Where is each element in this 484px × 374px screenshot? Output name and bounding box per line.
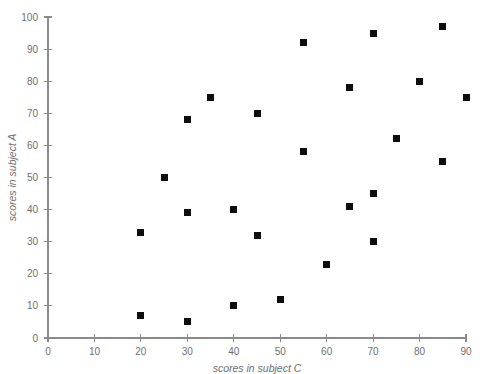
data-point	[439, 158, 446, 165]
x-tick-label: 40	[228, 346, 240, 357]
y-tick-label: 70	[27, 108, 39, 119]
x-tick-label: 0	[45, 346, 51, 357]
data-point	[161, 174, 168, 181]
data-point	[370, 190, 377, 197]
data-point	[346, 203, 353, 210]
data-point	[207, 94, 214, 101]
y-axis-group: 0102030405060708090100 scores in subject…	[6, 12, 52, 344]
y-tick-label: 80	[27, 76, 39, 87]
data-point	[230, 302, 237, 309]
plot-canvas: 0102030405060708090100 scores in subject…	[0, 0, 484, 374]
data-point	[184, 318, 191, 325]
x-axis-group: 0102030405060708090 scores in subject C	[45, 334, 472, 374]
y-tick-label: 20	[27, 268, 39, 279]
x-tick-label: 20	[135, 346, 147, 357]
data-point	[300, 148, 307, 155]
y-axis-title: scores in subject A	[6, 134, 18, 222]
data-point	[346, 84, 353, 91]
x-tick-label: 50	[275, 346, 287, 357]
scatter-plot-figure: 0102030405060708090100 scores in subject…	[0, 0, 484, 374]
x-tick-label: 90	[460, 346, 472, 357]
y-tick-label: 60	[27, 140, 39, 151]
data-point	[416, 78, 423, 85]
y-tick-label: 90	[27, 44, 39, 55]
y-tick-label: 50	[27, 172, 39, 183]
data-point	[300, 39, 307, 46]
x-tick-label: 80	[414, 346, 426, 357]
data-point	[137, 229, 144, 236]
y-tick-label: 10	[27, 300, 39, 311]
data-point	[230, 206, 237, 213]
data-point	[184, 116, 191, 123]
y-tick-label: 0	[32, 333, 38, 344]
x-tick-label: 10	[89, 346, 101, 357]
data-point	[439, 23, 446, 30]
data-point-group	[137, 23, 469, 325]
y-tick-label: 100	[21, 12, 38, 23]
x-tick-label: 30	[182, 346, 194, 357]
data-point	[393, 135, 400, 142]
data-point	[137, 312, 144, 319]
data-point	[323, 261, 330, 268]
x-axis-title: scores in subject C	[213, 362, 302, 374]
data-point	[463, 94, 470, 101]
y-tick-label: 40	[27, 204, 39, 215]
data-point	[277, 296, 284, 303]
data-point	[370, 238, 377, 245]
y-tick-label: 30	[27, 236, 39, 247]
x-tick-label: 60	[321, 346, 333, 357]
data-point	[254, 110, 261, 117]
data-point	[184, 209, 191, 216]
data-point	[370, 30, 377, 37]
data-point	[254, 232, 261, 239]
y-tick-group: 0102030405060708090100	[21, 12, 52, 344]
x-tick-label: 70	[368, 346, 380, 357]
